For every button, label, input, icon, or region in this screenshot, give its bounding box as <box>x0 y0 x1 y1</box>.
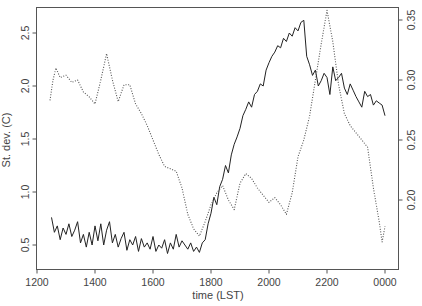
plot-frame <box>37 8 399 270</box>
x-tick-label: 1600 <box>141 276 165 288</box>
series-solid-line <box>52 20 386 253</box>
x-tick-label: 1200 <box>25 276 49 288</box>
y-tick-label-right: 0.20 <box>405 190 417 211</box>
x-axis-title: time (LST) <box>192 289 243 301</box>
y-tick-label-left: 1.0 <box>19 185 31 200</box>
y-tick-label-left: 2.0 <box>19 79 31 94</box>
series-dotted-line <box>50 10 385 242</box>
x-tick-label: 2000 <box>257 276 281 288</box>
y-axis-title: St. dev. (C) <box>0 113 12 168</box>
chart-figure: 1200140016001800200022000000 0.51.01.52.… <box>0 0 422 306</box>
x-tick-label: 1400 <box>83 276 107 288</box>
y-axis-left: 0.51.01.52.02.5 <box>19 26 37 253</box>
y-tick-label-right: 0.35 <box>405 10 417 31</box>
x-axis: 1200140016001800200022000000 <box>25 270 397 288</box>
x-tick-label: 0000 <box>373 276 397 288</box>
y-tick-label-right: 0.25 <box>405 130 417 151</box>
series-layer <box>50 10 385 253</box>
y-tick-label-left: 0.5 <box>19 238 31 253</box>
y-axis-right: 0.200.250.300.35 <box>399 10 417 211</box>
y-tick-label-left: 2.5 <box>19 26 31 41</box>
x-tick-label: 1800 <box>199 276 223 288</box>
y-tick-label-left: 1.5 <box>19 132 31 147</box>
x-tick-label: 2200 <box>315 276 339 288</box>
y-tick-label-right: 0.30 <box>405 70 417 91</box>
